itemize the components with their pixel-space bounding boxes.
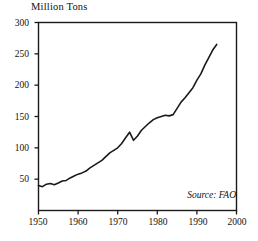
plot-area [0, 0, 258, 241]
data-series-line [39, 44, 217, 186]
axis-frame [39, 23, 237, 211]
plot-frame [39, 23, 237, 211]
chart-container: Million Tons 300 250 200 150 100 50 1950… [0, 0, 258, 241]
